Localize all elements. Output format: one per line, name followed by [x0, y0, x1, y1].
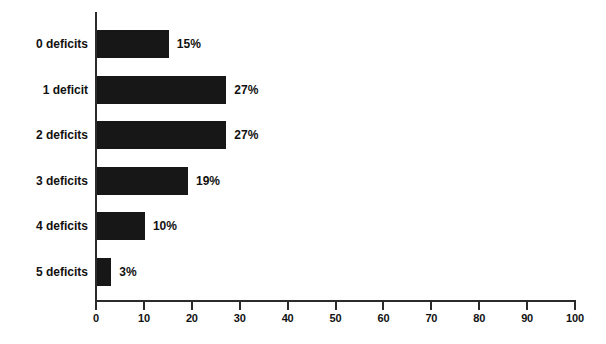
x-axis-tick: [95, 302, 97, 310]
x-axis-tick: [526, 302, 528, 310]
x-axis-tick: [382, 302, 384, 310]
x-axis-tick-label: 100: [560, 312, 590, 324]
category-label: 4 deficits: [0, 212, 88, 240]
bar-value-label: 10%: [153, 212, 177, 240]
x-axis-tick-label: 0: [81, 312, 111, 324]
x-axis-tick-label: 10: [129, 312, 159, 324]
category-label: 1 deficit: [0, 76, 88, 104]
bar-row: 5 deficits3%: [0, 258, 606, 286]
bar-row: 4 deficits10%: [0, 212, 606, 240]
category-label: 3 deficits: [0, 167, 88, 195]
x-axis-tick-label: 40: [273, 312, 303, 324]
x-axis-tick: [430, 302, 432, 310]
x-axis-tick-label: 90: [512, 312, 542, 324]
bar-value-label: 19%: [196, 167, 220, 195]
x-axis-tick-label: 50: [321, 312, 351, 324]
bar: [97, 30, 169, 58]
bar: [97, 121, 226, 149]
x-axis-tick-label: 60: [368, 312, 398, 324]
bar-value-label: 3%: [119, 258, 136, 286]
bar: [97, 258, 111, 286]
x-axis-tick-label: 30: [225, 312, 255, 324]
bar: [97, 167, 188, 195]
x-axis-tick-label: 20: [177, 312, 207, 324]
plot-area: 0102030405060708090100 0 deficits15%1 de…: [0, 0, 606, 344]
bar-row: 3 deficits19%: [0, 167, 606, 195]
x-axis-tick-label: 80: [464, 312, 494, 324]
bar-row: 1 deficit27%: [0, 76, 606, 104]
bar: [97, 76, 226, 104]
x-axis-tick: [574, 302, 576, 310]
bar-value-label: 15%: [177, 30, 201, 58]
category-label: 5 deficits: [0, 258, 88, 286]
x-axis-tick: [478, 302, 480, 310]
category-label: 2 deficits: [0, 121, 88, 149]
x-axis-tick-label: 70: [416, 312, 446, 324]
bar-row: 2 deficits27%: [0, 121, 606, 149]
x-axis-tick: [335, 302, 337, 310]
bar-chart: 0102030405060708090100 0 deficits15%1 de…: [0, 0, 606, 344]
bar: [97, 212, 145, 240]
x-axis-tick: [191, 302, 193, 310]
x-axis-tick: [143, 302, 145, 310]
bar-value-label: 27%: [234, 76, 258, 104]
x-axis-tick: [287, 302, 289, 310]
x-axis-tick: [239, 302, 241, 310]
bar-value-label: 27%: [234, 121, 258, 149]
bar-row: 0 deficits15%: [0, 30, 606, 58]
category-label: 0 deficits: [0, 30, 88, 58]
